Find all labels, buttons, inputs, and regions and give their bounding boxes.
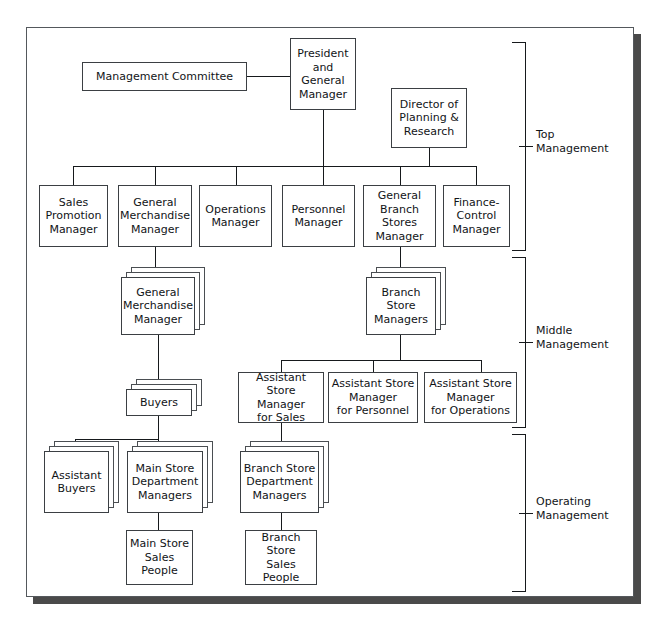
node-management-committee: Management Committee	[82, 62, 247, 91]
node-branch-store-sales-people: Branch Store Sales People	[245, 530, 317, 585]
node-general-merchandise-manager: General Merchandise Manager	[118, 185, 192, 247]
connector-drop-general-branch-stores	[400, 166, 401, 185]
connector-committee-president	[247, 76, 290, 77]
node-assistant-store-manager-operations: Assistant Store Manager for Operations	[424, 372, 517, 423]
node-president: President and General Manager	[290, 38, 356, 110]
node-main-store-dept-managers: Main Store Department Managers	[127, 451, 203, 513]
node-branch-store-managers: Branch Store Managers	[366, 277, 436, 335]
connector-drop-general-merchandise	[155, 166, 156, 185]
node-assistant-store-manager-personnel: Assistant Store Manager for Personnel	[328, 372, 418, 423]
bracket-middle-management-label: Middle Management	[536, 324, 608, 351]
node-main-store-sales-people: Main Store Sales People	[126, 530, 193, 585]
connector-drop-asm-operations	[481, 360, 482, 372]
node-operations-manager: Operations Manager	[199, 185, 272, 247]
org-chart-figure: Management Committee President and Gener…	[0, 0, 654, 634]
node-sales-promotion-manager: Sales Promotion Manager	[39, 185, 108, 247]
connector-main-dept-to-sales-people	[158, 513, 159, 530]
node-director-planning-research: Director of Planning & Research	[391, 88, 467, 148]
bracket-top-management-label: Top Management	[536, 128, 608, 155]
bracket-top-management-tick	[519, 146, 533, 147]
connector-branch-managers-stem	[400, 335, 401, 360]
node-finance-control-manager: Finance- Control Manager	[443, 185, 510, 247]
node-general-merchandise-manager-mid: General Merchandise Manager	[121, 277, 195, 335]
connector-asm-bus	[281, 360, 481, 361]
node-assistant-store-manager-sales: Assistant Store Manager for Sales	[238, 372, 324, 423]
connector-middle-gm-to-buyers	[158, 335, 159, 382]
connector-branch-dept-to-sales-people	[281, 513, 282, 530]
connector-buyers-stem	[158, 416, 159, 439]
bracket-middle-management-tick	[519, 342, 533, 343]
bracket-operating-management-label: Operating Management	[536, 495, 608, 522]
connector-drop-operations	[236, 166, 237, 185]
connector-drop-finance-control	[476, 166, 477, 185]
connector-director-stem	[429, 148, 430, 166]
node-branch-store-dept-managers: Branch Store Department Managers	[240, 451, 319, 513]
connector-top-bus	[73, 166, 477, 167]
connector-president-stem	[323, 110, 324, 166]
node-general-branch-stores-manager: General Branch Stores Manager	[363, 185, 436, 247]
connector-drop-personnel	[323, 166, 324, 185]
node-personnel-manager: Personnel Manager	[282, 185, 355, 247]
connector-drop-asm-personnel	[373, 360, 374, 372]
connector-drop-sales-promotion	[73, 166, 74, 185]
connector-buyers-bus	[75, 439, 158, 440]
node-assistant-buyers: Assistant Buyers	[44, 451, 109, 513]
node-buyers: Buyers	[126, 389, 192, 416]
bracket-operating-management-tick	[519, 513, 533, 514]
